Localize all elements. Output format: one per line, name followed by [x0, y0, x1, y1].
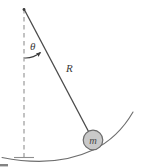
- angle-label: θ: [30, 40, 36, 52]
- angle-arc-arrow: [25, 53, 41, 59]
- mass-label: m: [89, 135, 97, 146]
- swing-path-arc: [2, 112, 133, 161]
- pendulum-rod-line: [24, 9, 93, 140]
- pendulum-figure: θ R m: [0, 0, 141, 168]
- radius-label: R: [65, 62, 73, 74]
- pendulum-diagram-canvas: θ R m: [0, 0, 141, 168]
- pivot-point: [23, 8, 26, 11]
- scan-artifact-mark: [0, 164, 8, 166]
